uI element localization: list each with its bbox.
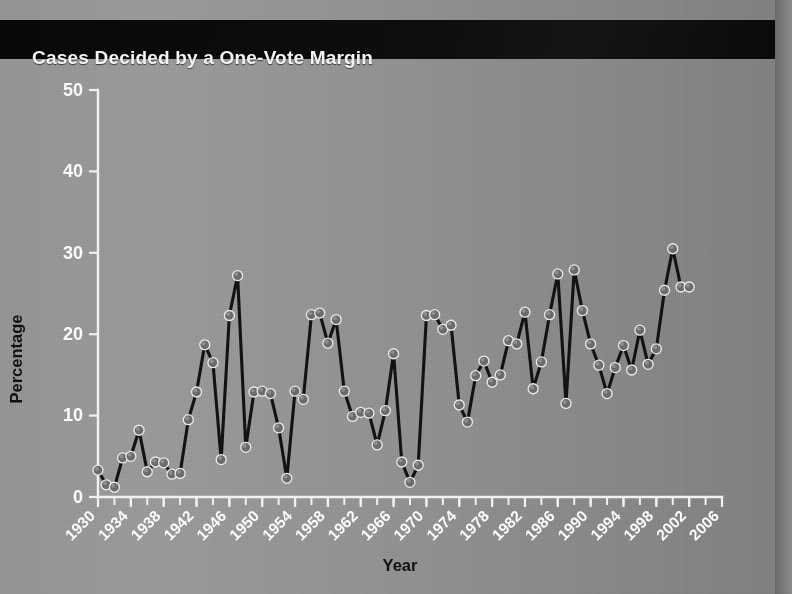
data-point-highlight	[160, 459, 164, 463]
data-point	[651, 344, 661, 354]
data-point	[405, 477, 415, 487]
data-point-highlight	[604, 390, 608, 394]
x-tick-label: 1930	[62, 507, 98, 543]
x-tick-label: 1982	[489, 507, 525, 543]
y-tick-label: 30	[63, 243, 83, 263]
y-tick-label: 10	[63, 405, 83, 425]
x-tick-label: 1978	[456, 507, 493, 544]
data-point-highlight	[579, 307, 583, 311]
data-point	[241, 442, 251, 452]
data-point	[216, 455, 226, 465]
data-point	[446, 320, 456, 330]
x-tick-label: 1986	[522, 507, 559, 544]
x-tick-label: 1950	[226, 507, 262, 543]
data-point	[479, 356, 489, 366]
x-tick-label: 1974	[423, 507, 460, 544]
data-point	[430, 310, 440, 320]
data-point	[618, 341, 628, 351]
data-point	[627, 365, 637, 375]
data-point-highlight	[464, 419, 468, 423]
data-point	[577, 306, 587, 316]
x-axis-tick-labels: 1930193419381942194619501954195819621966…	[62, 507, 723, 544]
page-right-edge	[775, 0, 792, 594]
data-point-highlight	[292, 388, 296, 392]
data-point	[545, 310, 555, 320]
data-point	[462, 417, 472, 427]
data-point	[290, 386, 300, 396]
x-tick-label: 1962	[324, 507, 360, 543]
data-point-highlight	[440, 326, 444, 330]
data-point-highlight	[645, 361, 649, 365]
data-point	[586, 339, 596, 349]
data-point-highlight	[620, 342, 624, 346]
x-tick-label: 1946	[193, 507, 230, 544]
data-point-highlight	[95, 467, 99, 471]
x-tick-label: 1970	[390, 507, 426, 543]
data-point	[569, 265, 579, 275]
x-tick-label: 2006	[686, 507, 723, 544]
data-point-highlight	[103, 481, 107, 485]
data-point	[159, 458, 169, 468]
data-point-highlight	[308, 311, 312, 315]
line-chart-svg: 01020304050 1930193419381942194619501954…	[0, 59, 775, 594]
data-point	[134, 425, 144, 435]
data-point	[610, 363, 620, 373]
data-point	[315, 308, 325, 318]
data-point-highlight	[234, 272, 238, 276]
data-point-highlight	[333, 316, 337, 320]
data-point-highlight	[242, 444, 246, 448]
data-point	[339, 386, 349, 396]
data-point-highlight	[267, 390, 271, 394]
data-point-highlight	[505, 337, 509, 341]
data-point-highlight	[152, 459, 156, 463]
y-axis-tick-labels: 01020304050	[63, 80, 83, 507]
data-point	[298, 394, 308, 404]
data-point-highlight	[136, 427, 140, 431]
x-tick-label: 1942	[160, 507, 196, 543]
data-point	[142, 467, 152, 477]
data-point-highlight	[193, 388, 197, 392]
data-point-highlight	[456, 402, 460, 406]
data-point-highlight	[119, 454, 123, 458]
data-point	[109, 482, 119, 492]
y-axis-ticks	[89, 90, 98, 497]
data-point	[635, 325, 645, 335]
data-point-highlight	[522, 309, 526, 313]
data-point-highlight	[472, 372, 476, 376]
data-point	[594, 360, 604, 370]
data-point-highlight	[128, 453, 132, 457]
data-point-highlight	[144, 468, 148, 472]
data-point-highlight	[407, 479, 411, 483]
data-point-highlight	[448, 322, 452, 326]
data-point-highlight	[653, 345, 657, 349]
data-point-highlight	[259, 388, 263, 392]
data-point-highlight	[201, 341, 205, 345]
data-point-highlight	[357, 409, 361, 413]
data-point	[274, 423, 284, 433]
data-point-highlight	[218, 456, 222, 460]
data-point-highlight	[398, 459, 402, 463]
data-point	[364, 408, 374, 418]
data-point	[643, 359, 653, 369]
data-point-highlight	[423, 312, 427, 316]
data-point	[200, 340, 210, 350]
x-axis-title: Year	[383, 556, 418, 574]
data-point-highlight	[678, 283, 682, 287]
x-tick-label: 1994	[587, 507, 624, 544]
data-point-highlight	[366, 410, 370, 414]
data-point	[553, 269, 563, 279]
data-point-highlight	[538, 358, 542, 362]
y-tick-label: 40	[63, 161, 83, 181]
x-tick-label: 1990	[554, 507, 590, 543]
data-point	[471, 371, 481, 381]
data-point-highlight	[300, 396, 304, 400]
data-point	[372, 440, 382, 450]
data-point	[389, 349, 399, 359]
data-point	[192, 387, 202, 397]
data-point	[208, 358, 218, 368]
data-point-highlight	[185, 416, 189, 420]
data-point	[397, 457, 407, 467]
data-point	[126, 451, 136, 461]
data-point-highlight	[669, 245, 673, 249]
data-point-highlight	[431, 311, 435, 315]
